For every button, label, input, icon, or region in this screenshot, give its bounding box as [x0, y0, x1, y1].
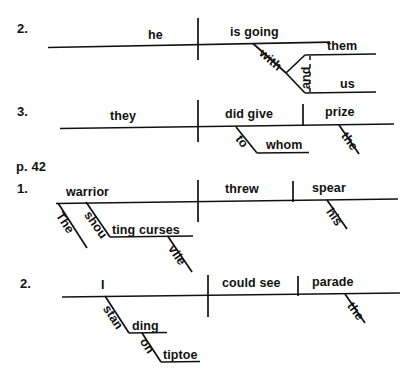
word-could-see: could see: [222, 277, 281, 290]
word-them: them: [327, 40, 357, 53]
word-they: they: [110, 110, 136, 123]
word-threw: threw: [225, 183, 259, 196]
word-did-give: did give: [225, 108, 273, 121]
word-ding: ding: [132, 320, 159, 333]
word-is-going: is going: [230, 26, 279, 39]
word-whom: whom: [266, 139, 303, 152]
word-spear: spear: [312, 182, 346, 195]
object-line-them: [305, 54, 376, 55]
word-warrior: warrior: [66, 186, 109, 199]
worksheet-sheet: 2. he is going with and them us 3. they …: [0, 0, 415, 387]
word-he: he: [148, 29, 163, 42]
item-number-1b: 1.: [17, 182, 28, 195]
word-us: us: [340, 78, 355, 91]
diagram-canvas: [0, 0, 415, 387]
object-line-whom: [257, 153, 309, 154]
object-line-us: [305, 92, 376, 93]
word-parade: parade: [312, 276, 354, 289]
item-number-3: 3.: [17, 105, 28, 118]
baseline-item1b: [56, 199, 398, 204]
item-number-2b: 2.: [20, 277, 31, 290]
word-and: and: [300, 66, 313, 89]
word-tiptoe: tiptoe: [163, 349, 198, 362]
word-ting-curses: ting curses: [112, 224, 180, 237]
page-marker: p. 42: [16, 160, 46, 173]
word-prize: prize: [325, 106, 355, 119]
item-number-2a: 2.: [17, 22, 28, 35]
baseline-item3: [60, 124, 394, 129]
baseline-item2b: [62, 293, 400, 297]
baseline-item2a: [48, 42, 330, 47]
word-I: I: [101, 279, 105, 292]
